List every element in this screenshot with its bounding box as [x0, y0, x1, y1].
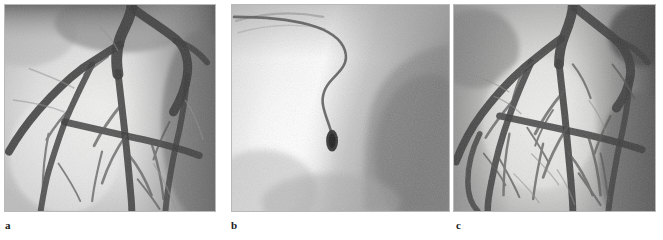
panel-c-image	[454, 5, 655, 211]
panel-label-a: a	[5, 219, 11, 232]
panel-a-image	[5, 5, 215, 211]
angiogram-panel-c	[453, 4, 656, 212]
panel-label-b: b	[231, 219, 237, 232]
angiography-figure: a b c	[0, 0, 663, 240]
angiogram-panel-a	[4, 4, 216, 212]
panel-b-image	[232, 5, 449, 211]
angiogram-panel-b	[231, 4, 450, 212]
panel-label-c: c	[456, 219, 461, 232]
